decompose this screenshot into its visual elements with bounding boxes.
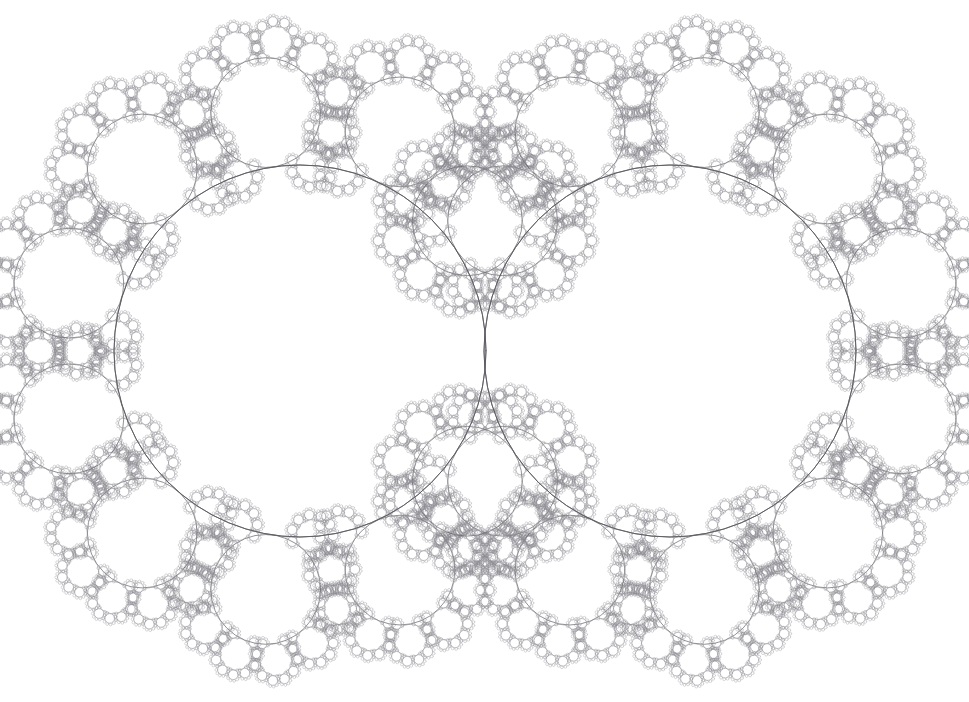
figure-root <box>0 0 969 702</box>
fractal-figure-canvas <box>0 0 969 702</box>
